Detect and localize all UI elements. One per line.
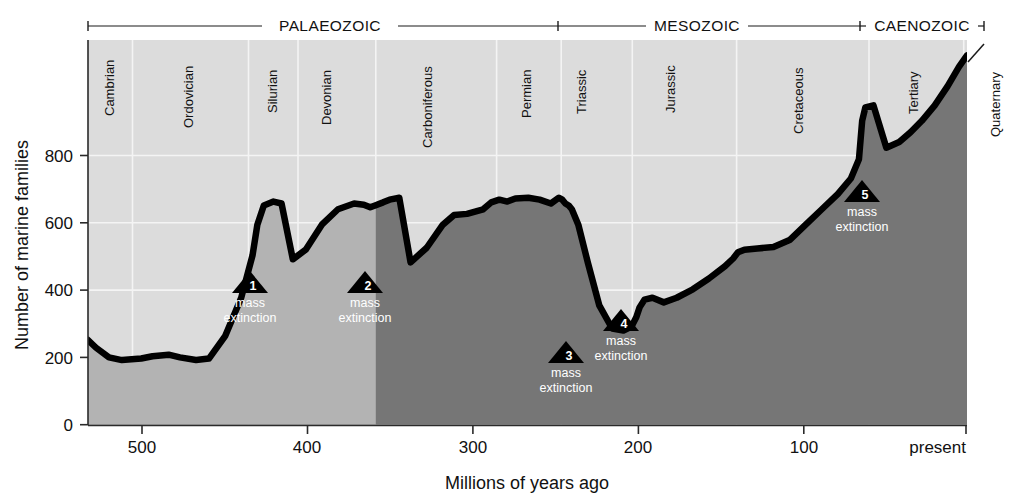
period-label-quaternary: Quaternary (988, 71, 1003, 137)
y-tick-label-200: 200 (45, 349, 73, 368)
period-label-carboniferous: Carboniferous (420, 66, 435, 148)
mass-extinction-number: 1 (250, 279, 257, 293)
mass-extinction-line2: extinction (836, 220, 889, 234)
mass-extinction-line1: mass (606, 334, 636, 348)
mass-extinction-line2: extinction (224, 311, 277, 325)
x-tick-label-400: 400 (293, 438, 321, 457)
era-label-palaeozoic: PALAEOZOIC (279, 17, 381, 34)
mass-extinction-line1: mass (235, 296, 265, 310)
x-axis: 500 400 300 200 100 present Millions of … (88, 426, 967, 494)
marine-families-chart: PALAEOZOIC MESOZOIC CAENOZOIC (0, 0, 1017, 502)
x-axis-title: Millions of years ago (445, 473, 609, 493)
period-label-cambrian: Cambrian (102, 60, 117, 116)
x-tick-label-present: present (909, 438, 966, 457)
x-tick-label-500: 500 (128, 438, 156, 457)
period-label-permian: Permian (519, 70, 534, 118)
mass-extinction-line2: extinction (540, 381, 593, 395)
y-tick-label-400: 400 (45, 281, 73, 300)
period-label-ordovician: Ordovician (181, 66, 196, 128)
period-label-cretaceous: Cretaceous (791, 67, 806, 134)
figure-root: PALAEOZOIC MESOZOIC CAENOZOIC (0, 0, 1017, 502)
y-tick-label-600: 600 (45, 214, 73, 233)
quaternary-leader-line (968, 44, 984, 62)
y-axis-title: Number of marine families (12, 140, 32, 350)
y-axis: 800 600 400 200 0 Number of marine famil… (12, 40, 88, 435)
period-label-tertiary: Tertiary (906, 71, 921, 114)
era-bar: PALAEOZOIC MESOZOIC CAENOZOIC (88, 17, 984, 34)
mass-extinction-line2: extinction (339, 311, 392, 325)
mass-extinction-line1: mass (847, 205, 877, 219)
y-tick-label-800: 800 (45, 147, 73, 166)
period-label-triassic: Triassic (574, 69, 589, 114)
period-label-silurian: Silurian (265, 70, 280, 113)
y-tick-label-0: 0 (64, 416, 73, 435)
mass-extinction-number: 2 (365, 279, 372, 293)
x-tick-label-300: 300 (459, 438, 487, 457)
era-label-mesozoic: MESOZOIC (654, 17, 740, 34)
mass-extinction-number: 5 (862, 188, 869, 202)
period-label-jurassic: Jurassic (663, 65, 678, 113)
x-tick-label-200: 200 (624, 438, 652, 457)
period-label-devonian: Devonian (319, 70, 334, 125)
mass-extinction-number: 4 (621, 317, 628, 331)
era-label-caenozoic: CAENOZOIC (874, 17, 970, 34)
mass-extinction-number: 3 (566, 349, 573, 363)
mass-extinction-line1: mass (551, 366, 581, 380)
x-tick-label-100: 100 (790, 438, 818, 457)
mass-extinction-line1: mass (350, 296, 380, 310)
mass-extinction-line2: extinction (595, 349, 648, 363)
